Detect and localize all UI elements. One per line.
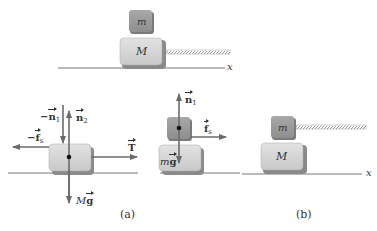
part-b-scene [242, 116, 366, 174]
weight-Mg-label: Mg [76, 196, 93, 206]
x-axis-label: x [366, 168, 372, 178]
weight-mg-label: mg [160, 157, 176, 167]
small-block-label: m [278, 123, 287, 133]
fs-label: fs [204, 124, 212, 136]
center-of-mass-dot [67, 155, 72, 160]
rope [296, 125, 366, 129]
rope [166, 50, 230, 54]
n1-label: n1 [185, 95, 197, 107]
neg-fs-label: −fs [27, 133, 43, 145]
neg-n1-label: −n1 [40, 112, 60, 124]
x-axis-label: x [227, 62, 233, 72]
large-block-label: M [276, 151, 287, 162]
tension-label: T [128, 143, 135, 153]
small-block-label: m [137, 17, 146, 27]
caption-b: (b) [296, 209, 312, 220]
caption-a: (a) [120, 209, 135, 220]
center-of-mass-dot [177, 126, 182, 131]
n2-label: n2 [76, 113, 88, 125]
fbd-large-block [8, 105, 138, 203]
large-block-label: M [136, 46, 147, 57]
